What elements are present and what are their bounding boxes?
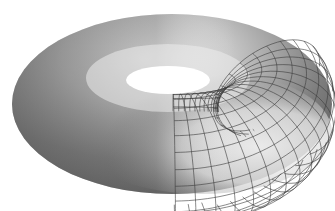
torus-shaded-body xyxy=(12,14,332,194)
torus-center-hole xyxy=(126,66,210,94)
torus-illustration xyxy=(0,0,335,211)
torus-figure xyxy=(0,0,335,211)
torus-hole xyxy=(126,66,210,94)
